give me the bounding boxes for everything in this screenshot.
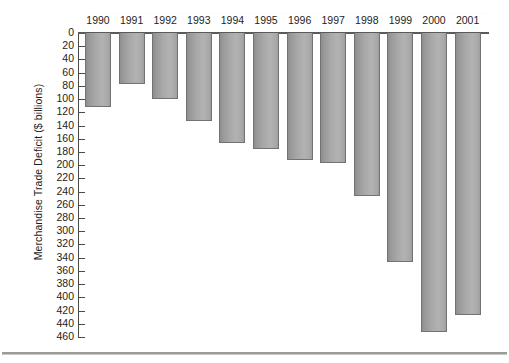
y-tick-mark (79, 231, 85, 232)
y-tick-mark (79, 112, 85, 113)
y-tick-label: 20 (34, 39, 74, 52)
year-label-1997: 1997 (316, 14, 350, 27)
bar-1995 (253, 33, 279, 149)
y-tick-label: 340 (34, 251, 74, 264)
y-tick-label: 400 (34, 290, 74, 303)
y-tick-mark (79, 324, 85, 325)
y-tick-mark (79, 126, 85, 127)
year-label-1992: 1992 (148, 14, 182, 27)
y-tick-label: 160 (34, 132, 74, 145)
y-tick-mark (79, 192, 85, 193)
y-tick-label: 40 (34, 52, 74, 65)
y-tick-label: 0 (34, 26, 74, 39)
y-tick-label: 260 (34, 198, 74, 211)
bar-1997 (320, 33, 346, 163)
y-tick-mark (79, 258, 85, 259)
year-label-1996: 1996 (283, 14, 317, 27)
y-axis-line (78, 33, 79, 338)
year-label-1994: 1994 (215, 14, 249, 27)
y-tick-mark (79, 205, 85, 206)
year-label-2000: 2000 (417, 14, 451, 27)
year-label-1999: 1999 (383, 14, 417, 27)
y-tick-mark (79, 284, 85, 285)
y-tick-label: 60 (34, 66, 74, 79)
merchandise-trade-deficit-bar-chart: Merchandise Trade Deficit ($ billions) 0… (0, 0, 509, 363)
year-label-1995: 1995 (249, 14, 283, 27)
y-tick-label: 220 (34, 171, 74, 184)
y-tick-label: 100 (34, 92, 74, 105)
bar-2000 (421, 33, 447, 332)
y-tick-mark (79, 178, 85, 179)
y-tick-label: 360 (34, 264, 74, 277)
year-label-1998: 1998 (350, 14, 384, 27)
bar-1994 (219, 33, 245, 143)
y-tick-mark (79, 244, 85, 245)
y-tick-label: 440 (34, 317, 74, 330)
year-label-1990: 1990 (81, 14, 115, 27)
bar-1991 (119, 33, 145, 84)
y-tick-label: 120 (34, 105, 74, 118)
y-tick-label: 140 (34, 119, 74, 132)
y-tick-mark (79, 165, 85, 166)
y-tick-mark (79, 297, 85, 298)
y-tick-mark (79, 152, 85, 153)
bar-2001 (455, 33, 481, 315)
bar-1992 (152, 33, 178, 99)
year-label-2001: 2001 (451, 14, 485, 27)
year-label-1993: 1993 (182, 14, 216, 27)
y-tick-label: 380 (34, 277, 74, 290)
y-tick-label: 200 (34, 158, 74, 171)
y-tick-mark (79, 311, 85, 312)
bar-1993 (186, 33, 212, 121)
y-tick-mark (79, 139, 85, 140)
bar-1998 (354, 33, 380, 196)
bar-1999 (387, 33, 413, 262)
y-tick-label: 240 (34, 185, 74, 198)
y-tick-mark (79, 271, 85, 272)
y-tick-label: 80 (34, 79, 74, 92)
y-tick-mark (79, 337, 85, 338)
year-label-1991: 1991 (115, 14, 149, 27)
y-tick-mark (79, 218, 85, 219)
y-tick-label: 460 (34, 330, 74, 343)
y-tick-label: 300 (34, 224, 74, 237)
y-tick-label: 280 (34, 211, 74, 224)
y-tick-label: 420 (34, 304, 74, 317)
bar-1996 (287, 33, 313, 160)
bar-1990 (85, 33, 111, 107)
footer-rule-shadow (2, 354, 507, 355)
y-tick-label: 180 (34, 145, 74, 158)
y-tick-label: 320 (34, 237, 74, 250)
